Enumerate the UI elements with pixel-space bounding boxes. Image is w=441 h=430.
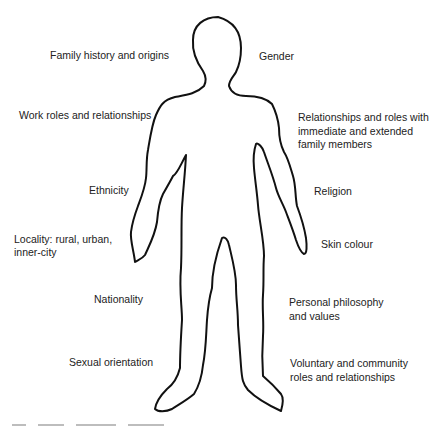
label-family-relationships-line-2: immediate and extended bbox=[298, 125, 429, 139]
label-family-relationships: Relationships and roles with immediate a… bbox=[298, 111, 429, 152]
label-gender: Gender bbox=[259, 50, 294, 63]
label-personal-philosophy: Personal philosophy and values bbox=[289, 296, 384, 323]
label-family-relationships-line-1: Relationships and roles with bbox=[298, 111, 429, 125]
label-voluntary-community-line-2: roles and relationships bbox=[290, 371, 408, 385]
label-work-roles: Work roles and relationships bbox=[19, 109, 151, 122]
label-personal-philosophy-line-1: Personal philosophy bbox=[289, 296, 384, 310]
label-voluntary-community-line-1: Voluntary and community bbox=[290, 357, 408, 371]
identity-body-diagram: Family history and origins Work roles an… bbox=[0, 0, 441, 430]
label-religion: Religion bbox=[314, 185, 352, 198]
label-locality-line-1: Locality: rural, urban, bbox=[14, 233, 112, 246]
label-voluntary-community: Voluntary and community roles and relati… bbox=[290, 357, 408, 384]
label-sexual-orientation: Sexual orientation bbox=[69, 356, 153, 369]
label-locality: Locality: rural, urban, inner-city bbox=[14, 233, 112, 259]
label-family-history: Family history and origins bbox=[50, 49, 169, 62]
label-nationality: Nationality bbox=[94, 293, 143, 306]
label-ethnicity: Ethnicity bbox=[89, 184, 129, 197]
label-family-relationships-line-3: family members bbox=[298, 138, 429, 152]
label-skin-colour: Skin colour bbox=[321, 238, 373, 251]
figure-caption-cropped bbox=[12, 424, 232, 430]
label-locality-line-2: inner-city bbox=[14, 246, 112, 259]
label-personal-philosophy-line-2: and values bbox=[289, 310, 384, 324]
